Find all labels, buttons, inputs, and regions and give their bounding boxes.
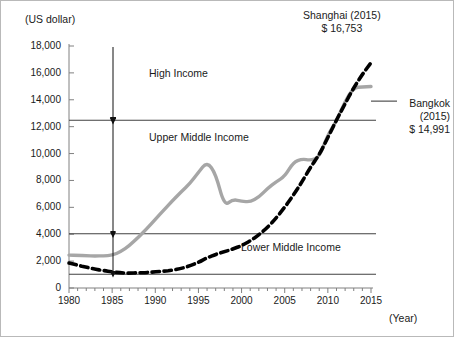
chart-canvas — [1, 1, 454, 337]
data-series — [69, 63, 371, 273]
band-range-arrows — [113, 47, 397, 274]
series-line-bangkok — [69, 87, 371, 256]
chart-figure: (US dollar) (Year) 18,00016,00014,00012,… — [0, 0, 454, 337]
series-line-shanghai — [69, 63, 371, 273]
